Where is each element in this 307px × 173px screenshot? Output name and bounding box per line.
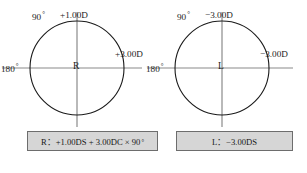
horizontal-power-label: +3.00D bbox=[115, 50, 143, 59]
left-eye-prescription-box: L：−3.00DS bbox=[176, 131, 293, 151]
degree-symbol: ° bbox=[15, 62, 19, 70]
center-eye-mark: L bbox=[218, 62, 224, 72]
vertical-power-label: +1.00D bbox=[60, 11, 88, 20]
vertical-axis-label: 90° bbox=[177, 11, 190, 22]
center-eye-mark: R bbox=[73, 62, 79, 72]
optical-cross-figure: 90° +1.00D 180° +3.00D R 90° −3.00D 180°… bbox=[0, 0, 307, 173]
horizontal-axis-label: 180° bbox=[1, 63, 19, 74]
degree-symbol: ° bbox=[160, 62, 164, 70]
vertical-power-label: −3.00D bbox=[205, 11, 233, 20]
degree-symbol: ° bbox=[186, 10, 190, 18]
horizontal-power-label: −3.00D bbox=[260, 50, 288, 59]
horizontal-axis-label: 180° bbox=[146, 63, 164, 74]
degree-symbol: ° bbox=[140, 138, 144, 145]
right-eye-prescription-text: R：+1.00DS + 3.00DC × 90 bbox=[41, 135, 140, 147]
right-eye-prescription-box: R：+1.00DS + 3.00DC × 90° bbox=[27, 131, 158, 151]
left-eye-prescription-text: L：−3.00DS bbox=[212, 135, 257, 147]
vertical-axis-label: 90° bbox=[32, 11, 45, 22]
degree-symbol: ° bbox=[41, 10, 45, 18]
